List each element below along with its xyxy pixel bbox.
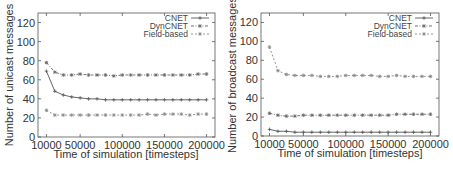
legend: CNETDynCNETField-based	[144, 13, 209, 39]
y-tick-label: 40	[23, 93, 35, 105]
y-tick-label: 20	[246, 111, 258, 123]
y-axis-label: Number of broadcast messages	[226, 0, 238, 153]
charts: 020406080100120 100005000010000015000020…	[0, 0, 453, 171]
y-tick-label: 120	[240, 16, 258, 28]
y-axis-label: Number of unicast messages	[3, 3, 15, 146]
y-tick-label: 80	[23, 55, 35, 67]
y-tick-label: 80	[246, 54, 258, 66]
data-series	[268, 45, 433, 134]
broadcast-chart: 020406080100120 100005000010000015000020…	[226, 0, 449, 159]
data-series	[45, 61, 209, 117]
y-tick-label: 20	[23, 112, 35, 124]
unicast-chart: 020406080100120 100005000010000015000020…	[3, 3, 225, 160]
y-tick-label: 100	[17, 36, 35, 48]
x-axis-label: Time of simulation [timesteps]	[53, 148, 198, 160]
series-line	[269, 129, 430, 132]
series-line	[46, 71, 206, 100]
legend: CNETDynCNETField-based	[368, 13, 433, 39]
y-tick-label: 60	[23, 74, 35, 86]
y-tick-label: 40	[246, 92, 258, 104]
y-tick-label: 100	[240, 35, 258, 47]
y-tick-label: 120	[17, 17, 35, 29]
y-tick-label: 60	[246, 73, 258, 85]
legend-label: Field-based	[144, 29, 189, 39]
x-axis-label: Time of simulation [timesteps]	[277, 147, 422, 159]
series-line	[269, 47, 430, 76]
legend-label: Field-based	[368, 29, 413, 39]
